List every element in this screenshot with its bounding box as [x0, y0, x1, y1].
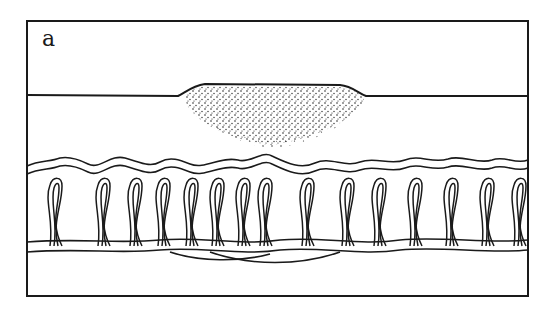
schematic-figure: a: [0, 0, 558, 312]
panel-label: a: [42, 28, 55, 50]
figure-drawing: [0, 0, 558, 312]
wavy-layer: [27, 154, 528, 174]
capillary-loops: [48, 178, 526, 246]
stippled-deposit: [185, 86, 364, 145]
